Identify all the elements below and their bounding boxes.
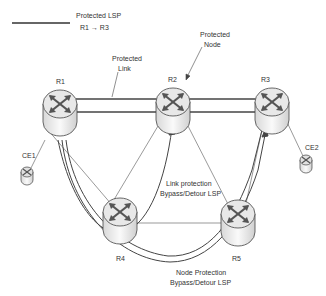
protected-node-pointer: [187, 47, 202, 77]
link-r1-r4: [48, 130, 112, 205]
ce2-label: CE2: [305, 144, 319, 151]
router-r1: R1: [43, 78, 77, 136]
router-r5: R5: [221, 200, 255, 262]
ce2-device: CE2: [300, 144, 319, 173]
router-r4: R4: [103, 198, 137, 262]
links: [30, 120, 303, 223]
link-protection-label-1: Link protection: [166, 180, 212, 188]
router-r3: R3: [255, 76, 289, 134]
protected-link-label-1: Protected: [112, 55, 142, 62]
router-r3-label: R3: [261, 76, 270, 83]
protected-link-pointer: [112, 72, 118, 97]
node-protection-label-2: Bypass/Detour LSP: [170, 279, 231, 287]
router-r5-label: R5: [232, 255, 241, 262]
link-protection-label-2: Bypass/Detour LSP: [160, 190, 221, 198]
mpls-frr-diagram: Protected LSP R1 → R3 Protected Link Pro…: [0, 0, 326, 296]
protected-node-label-1: Protected: [200, 31, 230, 38]
ce1-label: CE1: [22, 152, 36, 159]
legend: Protected LSP R1 → R3: [12, 12, 121, 31]
router-r4-label: R4: [116, 255, 125, 262]
node-protection-label-1: Node Protection: [176, 269, 226, 276]
router-r1-label: R1: [56, 78, 65, 85]
protected-link-label-2: Link: [118, 65, 131, 72]
legend-path: R1 → R3: [80, 24, 109, 31]
ce1-device: CE1: [21, 152, 36, 185]
legend-label: Protected LSP: [76, 12, 121, 19]
link-r3-ce2: [286, 120, 303, 156]
link-r2-r4: [112, 126, 158, 203]
router-r2: R2: [156, 76, 190, 134]
protected-node-label-2: Node: [204, 41, 221, 48]
router-r2-label: R2: [168, 76, 177, 83]
